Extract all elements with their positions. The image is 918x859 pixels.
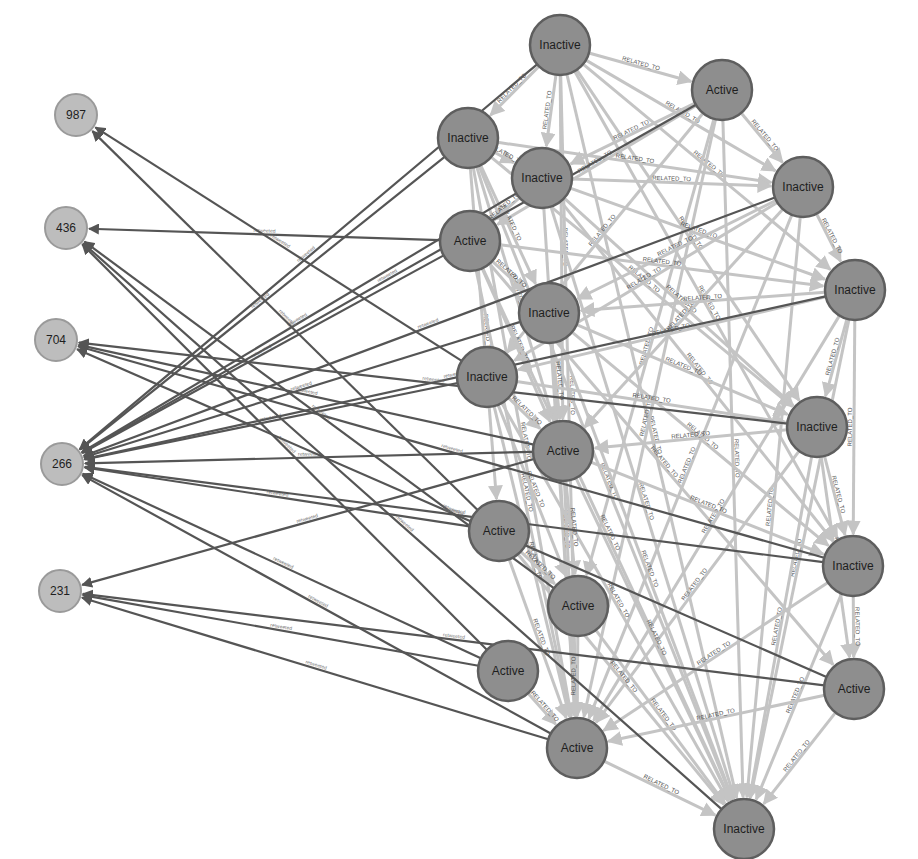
node-label: Active xyxy=(706,83,739,97)
related-to-edge[interactable]: RELATED_TO xyxy=(528,690,560,724)
node-label: Active xyxy=(454,234,487,248)
status-node-inactive[interactable]: Inactive xyxy=(787,397,847,457)
edge-label: RELATED_TO xyxy=(750,118,780,152)
status-node-active[interactable]: Active xyxy=(440,211,500,271)
retweeted-edge[interactable]: retweeted xyxy=(95,127,461,361)
status-node-active[interactable]: Active xyxy=(533,421,593,481)
node-label: Inactive xyxy=(521,171,563,185)
retweeted-edge[interactable]: retweeted xyxy=(83,594,824,686)
node-label: 231 xyxy=(50,584,70,598)
status-node-active[interactable]: Active xyxy=(478,641,538,701)
user-node-436[interactable]: 436 xyxy=(45,207,87,249)
node-label: 436 xyxy=(56,221,76,235)
graph-canvas[interactable]: RELATED_TORELATED_TORELATED_TORELATED_TO… xyxy=(0,0,918,859)
status-node-inactive[interactable]: Inactive xyxy=(512,148,572,208)
status-node-active[interactable]: Active xyxy=(824,659,884,719)
retweeted-edge[interactable]: retweeted xyxy=(89,227,440,240)
status-node-active[interactable]: Active xyxy=(469,501,529,561)
node-label: Inactive xyxy=(832,559,874,573)
status-node-inactive[interactable]: Inactive xyxy=(438,108,498,168)
edge-label: RELATED_TO xyxy=(821,217,844,255)
status-node-active[interactable]: Active xyxy=(692,60,752,120)
node-label: Inactive xyxy=(528,306,570,320)
related-to-edge[interactable]: RELATED_TO xyxy=(542,75,556,147)
status-node-inactive[interactable]: Inactive xyxy=(823,536,883,596)
retweeted-edge[interactable]: retweeted xyxy=(79,343,787,424)
node-label: 704 xyxy=(46,333,66,347)
retweeted-edge[interactable]: retweeted xyxy=(84,296,825,459)
status-node-inactive[interactable]: Inactive xyxy=(530,15,590,75)
status-node-inactive[interactable]: Inactive xyxy=(519,283,579,343)
status-node-active[interactable]: Active xyxy=(547,718,607,778)
edge-label: RELATED_TO xyxy=(782,738,811,772)
user-node-266[interactable]: 266 xyxy=(41,443,83,485)
node-label: Active xyxy=(483,524,516,538)
related-to-edge[interactable]: RELATED_TO xyxy=(591,462,823,554)
nodes-layer: 987436704266231InactiveActiveInactiveIna… xyxy=(35,15,885,859)
node-label: Active xyxy=(562,599,595,613)
node-label: Inactive xyxy=(466,370,508,384)
retweeted-edge[interactable]: retweeted xyxy=(92,131,477,510)
retweeted-edge[interactable]: retweeted xyxy=(82,105,696,453)
edge-label: RELATED_TO xyxy=(643,773,681,795)
user-node-704[interactable]: 704 xyxy=(35,319,77,361)
node-label: Active xyxy=(492,664,525,678)
edge-label: RELATED_TO xyxy=(649,445,679,479)
node-label: Inactive xyxy=(782,180,824,194)
related-to-edge[interactable]: RELATED_TO xyxy=(853,596,860,657)
related-to-edge[interactable]: RELATED_TO xyxy=(491,66,539,115)
node-label: Active xyxy=(561,741,594,755)
node-label: Inactive xyxy=(796,420,838,434)
node-label: Inactive xyxy=(834,283,876,297)
status-node-active[interactable]: Active xyxy=(548,576,608,636)
edge-label: RELATED_TO xyxy=(854,607,860,646)
node-label: 266 xyxy=(52,457,72,471)
related-to-edge[interactable]: RELATED_TO xyxy=(589,53,691,81)
node-label: Inactive xyxy=(723,822,765,836)
status-node-inactive[interactable]: Inactive xyxy=(825,260,885,320)
node-label: Active xyxy=(838,682,871,696)
edge-label: RELATED_TO xyxy=(530,690,561,723)
related-to-edge[interactable]: RELATED_TO xyxy=(817,214,844,262)
user-node-231[interactable]: 231 xyxy=(39,570,81,612)
retweeted-edge[interactable]: retweeted xyxy=(85,467,470,526)
node-label: Inactive xyxy=(447,131,489,145)
node-label: Active xyxy=(547,444,580,458)
user-node-987[interactable]: 987 xyxy=(55,94,97,136)
status-node-inactive[interactable]: Inactive xyxy=(714,799,774,859)
status-node-inactive[interactable]: Inactive xyxy=(457,347,517,407)
retweeted-edge[interactable]: retweeted xyxy=(80,157,445,450)
status-node-inactive[interactable]: Inactive xyxy=(773,157,833,217)
node-label: Inactive xyxy=(539,38,581,52)
node-label: 987 xyxy=(66,108,86,122)
